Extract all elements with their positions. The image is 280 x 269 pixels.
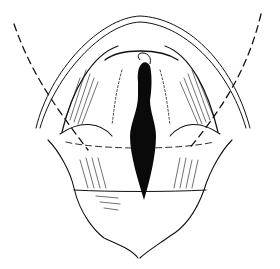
cartilage-outline (48, 140, 138, 258)
inner-arch (105, 51, 178, 60)
arytenoid-right (170, 124, 220, 136)
illustration-drawing (0, 0, 280, 269)
arytenoid-left (60, 124, 112, 136)
larynx-illustration (0, 0, 280, 269)
dashed-guide-right (188, 14, 261, 150)
fold-right (165, 46, 218, 132)
glottis-opening (130, 62, 156, 200)
